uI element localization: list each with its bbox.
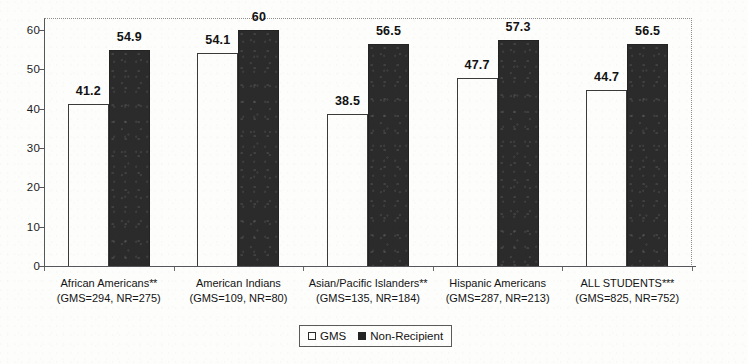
- bar-non-recipient: [238, 30, 279, 266]
- y-tick-label: 0: [6, 260, 40, 272]
- bar-label-non-recipient: 56.5: [376, 24, 401, 38]
- bar-gms: [327, 114, 368, 266]
- y-tick-mark: [39, 30, 44, 31]
- x-axis-line: [44, 266, 696, 267]
- category-name: ALL STUDENTS: [580, 277, 662, 289]
- category-sample-size: (GMS=109, NR=80): [189, 291, 287, 306]
- y-tick-mark: [39, 148, 44, 149]
- x-group-tick: [303, 267, 304, 271]
- bar-label-non-recipient: 60: [252, 10, 266, 24]
- category-name: African Americans: [60, 277, 149, 289]
- chart-legend: GMS Non-Recipient: [299, 325, 452, 347]
- x-group-tick: [562, 267, 563, 271]
- category-sample-size: (GMS=287, NR=213): [446, 291, 550, 306]
- y-tick-label: 40: [6, 103, 40, 115]
- y-axis: 6050403020100: [0, 0, 40, 364]
- bar-gms: [457, 78, 498, 266]
- y-tick-label: 10: [6, 221, 40, 233]
- bar-label-gms: 44.7: [594, 70, 619, 84]
- category-label: Asian/Pacific Islanders**(GMS=135, NR=18…: [309, 276, 428, 306]
- category-name: American Indians: [196, 277, 281, 289]
- y-tick-mark: [39, 227, 44, 228]
- category-sample-size: (GMS=825, NR=752): [575, 291, 679, 306]
- category-label: American Indians(GMS=109, NR=80): [189, 276, 287, 306]
- y-tick-label: 60: [6, 24, 40, 36]
- category-name: Asian/Pacific Islanders: [309, 277, 420, 289]
- bar-label-non-recipient: 57.3: [506, 20, 531, 34]
- category-name: Hispanic Americans: [449, 277, 546, 289]
- footnote-marker: **: [419, 277, 427, 289]
- category-sample-size: (GMS=294, NR=275): [57, 291, 161, 306]
- x-group-tick: [174, 267, 175, 271]
- bar-label-non-recipient: 56.5: [635, 24, 660, 38]
- bar-non-recipient: [498, 40, 539, 266]
- filled-square-icon: [358, 332, 366, 340]
- hollow-square-icon: [308, 332, 316, 340]
- legend-label-non-recipient: Non-Recipient: [370, 330, 443, 342]
- x-group-tick: [44, 267, 45, 271]
- legend-item-non-recipient: Non-Recipient: [358, 330, 443, 342]
- bar-label-gms: 54.1: [205, 33, 230, 47]
- y-tick-label: 20: [6, 181, 40, 193]
- footnote-marker: **: [149, 277, 157, 289]
- x-group-tick: [692, 267, 693, 271]
- bar-gms: [197, 53, 238, 266]
- category-sample-size: (GMS=135, NR=184): [309, 291, 428, 306]
- bar-gms: [586, 90, 627, 266]
- legend-item-gms: GMS: [308, 330, 346, 342]
- x-group-tick: [433, 267, 434, 271]
- category-label: ALL STUDENTS***(GMS=825, NR=752): [575, 276, 679, 306]
- bar-label-gms: 38.5: [335, 94, 360, 108]
- bar-label-gms: 41.2: [76, 84, 101, 98]
- category-label: African Americans**(GMS=294, NR=275): [57, 276, 161, 306]
- bar-label-gms: 47.7: [465, 58, 490, 72]
- bar-non-recipient: [109, 50, 150, 266]
- bar-label-non-recipient: 54.9: [117, 30, 142, 44]
- chart-figure: 6050403020100 41.254.954.16038.556.547.7…: [0, 0, 748, 364]
- legend-label-gms: GMS: [320, 330, 346, 342]
- bar-non-recipient: [627, 44, 668, 266]
- y-tick-mark: [39, 109, 44, 110]
- y-tick-label: 50: [6, 63, 40, 75]
- bar-non-recipient: [368, 44, 409, 266]
- y-tick-mark: [39, 187, 44, 188]
- y-tick-mark: [39, 69, 44, 70]
- y-tick-label: 30: [6, 142, 40, 154]
- bar-gms: [68, 104, 109, 266]
- category-label: Hispanic Americans(GMS=287, NR=213): [446, 276, 550, 306]
- footnote-marker: ***: [662, 277, 674, 289]
